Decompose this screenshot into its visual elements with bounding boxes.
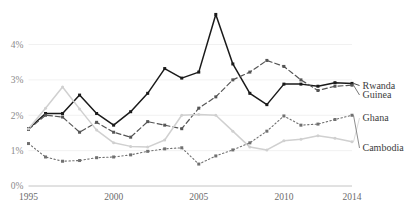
- x-axis-tick-labels: 19952000200520102014: [19, 192, 362, 202]
- data-point-ghana-2005: [197, 113, 200, 116]
- data-point-cambodia-2011: [299, 124, 302, 127]
- data-point-cambodia-2012: [316, 123, 319, 126]
- y-tick-label: 3%: [11, 75, 24, 85]
- x-tick-label: 1995: [19, 192, 38, 202]
- data-point-rwanda-2013: [333, 81, 336, 84]
- data-point-guinea-2004: [180, 127, 183, 130]
- data-point-guinea-2009: [265, 59, 268, 62]
- data-point-cambodia-2001: [129, 153, 132, 156]
- line-chart: 0%1%2%3%4% 19952000200520102014 RwandaGu…: [0, 0, 414, 221]
- y-axis-tick-labels: 0%1%2%3%4%: [11, 40, 24, 192]
- data-point-cambodia-1996: [44, 155, 47, 158]
- data-point-rwanda-1997: [61, 112, 64, 115]
- x-tick-label: 2010: [274, 192, 293, 202]
- data-point-guinea-2005: [197, 107, 200, 110]
- data-point-rwanda-2004: [180, 77, 183, 80]
- data-point-ghana-2009: [265, 148, 268, 151]
- y-tick-label: 2%: [11, 111, 24, 121]
- chart-legend: RwandaGuineaGhanaCambodia: [354, 80, 405, 154]
- data-point-cambodia-2005: [197, 163, 200, 166]
- data-point-rwanda-2009: [265, 103, 268, 106]
- data-point-cambodia-1995: [27, 142, 30, 145]
- data-point-cambodia-2008: [248, 141, 251, 144]
- data-point-guinea-2012: [316, 89, 319, 92]
- data-point-ghana-2004: [180, 114, 183, 117]
- data-point-cambodia-2002: [146, 150, 149, 153]
- data-point-cambodia-2014: [351, 114, 354, 117]
- data-point-rwanda-2012: [316, 85, 319, 88]
- data-point-guinea-2003: [163, 124, 166, 127]
- data-point-cambodia-1998: [78, 159, 81, 162]
- data-point-ghana-1999: [95, 129, 98, 132]
- data-point-rwanda-2006: [214, 13, 217, 16]
- series-line-cambodia: [29, 115, 353, 164]
- data-point-ghana-2011: [299, 138, 302, 141]
- legend-leader-guinea: [354, 85, 360, 95]
- data-point-rwanda-1998: [78, 94, 81, 97]
- data-point-cambodia-2013: [333, 118, 336, 121]
- data-point-ghana-2013: [333, 137, 336, 140]
- data-point-guinea-1999: [95, 121, 98, 124]
- x-tick-label: 2000: [104, 192, 123, 202]
- series-line-rwanda: [29, 14, 353, 128]
- data-point-rwanda-2003: [163, 67, 166, 70]
- data-point-guinea-2011: [299, 78, 302, 81]
- series-lines-group: [29, 14, 353, 164]
- data-point-guinea-2000: [112, 131, 115, 134]
- chart-canvas: 0%1%2%3%4% 19952000200520102014 RwandaGu…: [0, 0, 414, 221]
- data-point-guinea-2008: [248, 71, 251, 74]
- data-point-ghana-2010: [282, 139, 285, 142]
- data-point-ghana-2000: [112, 141, 115, 144]
- x-tick-label: 2014: [343, 192, 362, 202]
- legend-label-ghana: Ghana: [363, 112, 390, 123]
- x-tick-label: 2005: [189, 192, 208, 202]
- data-point-rwanda-2002: [146, 92, 149, 95]
- legend-leader-rwanda: [354, 83, 360, 85]
- data-point-ghana-2006: [214, 114, 217, 117]
- legend-label-guinea: Guinea: [363, 89, 392, 100]
- series-markers-group: [27, 13, 354, 166]
- data-point-guinea-2002: [146, 120, 149, 123]
- data-point-ghana-2012: [316, 134, 319, 137]
- data-point-cambodia-1997: [61, 160, 64, 163]
- data-point-rwanda-2000: [112, 124, 115, 127]
- data-point-guinea-2014: [351, 84, 354, 87]
- data-point-cambodia-1999: [95, 156, 98, 159]
- data-point-ghana-2003: [163, 139, 166, 142]
- data-point-guinea-2006: [214, 95, 217, 98]
- data-point-ghana-2014: [351, 140, 354, 143]
- y-tick-label: 1%: [11, 146, 24, 156]
- data-point-ghana-1995: [27, 127, 30, 130]
- data-point-ghana-2002: [146, 146, 149, 149]
- series-line-ghana: [29, 87, 353, 150]
- data-point-cambodia-2006: [214, 154, 217, 157]
- data-point-guinea-2001: [129, 136, 132, 139]
- data-point-guinea-1998: [78, 131, 81, 134]
- data-point-cambodia-2010: [282, 114, 285, 117]
- data-point-cambodia-2007: [231, 148, 234, 151]
- legend-label-cambodia: Cambodia: [363, 142, 405, 153]
- data-point-rwanda-1999: [95, 112, 98, 115]
- data-point-guinea-2010: [282, 65, 285, 68]
- data-point-rwanda-2007: [231, 62, 234, 65]
- data-point-ghana-2007: [231, 130, 234, 133]
- data-point-ghana-1997: [61, 85, 64, 88]
- data-point-rwanda-2001: [129, 110, 132, 113]
- data-point-ghana-1998: [78, 107, 81, 110]
- data-point-cambodia-2004: [180, 146, 183, 149]
- data-point-guinea-1996: [44, 114, 47, 117]
- data-point-rwanda-2010: [282, 83, 285, 86]
- data-point-rwanda-2008: [248, 92, 251, 95]
- data-point-cambodia-2003: [163, 147, 166, 150]
- data-point-guinea-2013: [333, 85, 336, 88]
- data-point-guinea-2007: [231, 78, 234, 81]
- data-point-cambodia-2009: [265, 130, 268, 133]
- data-point-rwanda-2011: [299, 83, 302, 86]
- data-point-ghana-1996: [44, 107, 47, 110]
- data-point-ghana-2001: [129, 145, 132, 148]
- data-point-guinea-1997: [61, 116, 64, 119]
- y-tick-label: 0%: [11, 181, 24, 191]
- y-tick-label: 4%: [11, 40, 24, 50]
- data-point-rwanda-2005: [197, 71, 200, 74]
- data-point-ghana-2008: [248, 146, 251, 149]
